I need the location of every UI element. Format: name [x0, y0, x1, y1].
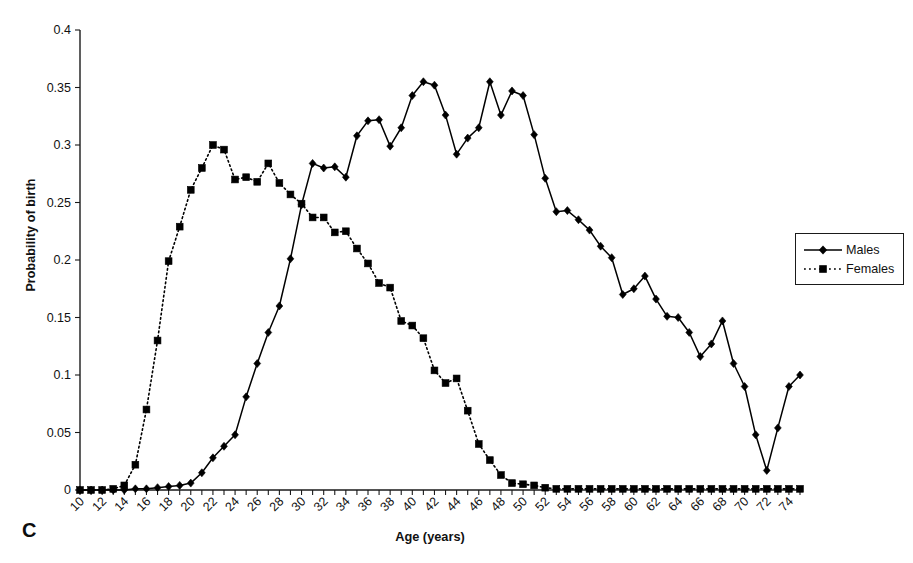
data-point-females: [354, 245, 361, 252]
data-point-males: [509, 87, 516, 95]
data-point-females: [365, 260, 372, 267]
x-tick-label: 50: [510, 494, 530, 514]
y-tick-label: 0.1: [54, 368, 71, 382]
legend-swatch-males: [803, 243, 843, 257]
data-point-females: [320, 214, 327, 221]
data-point-females: [664, 485, 671, 492]
x-tick-label: 66: [688, 494, 708, 514]
x-tick-label: 44: [444, 494, 464, 514]
x-tick-label: 36: [355, 494, 375, 514]
data-point-females: [143, 406, 150, 413]
y-tick-label: 0.2: [54, 253, 71, 267]
data-point-females: [763, 485, 770, 492]
data-point-females: [774, 485, 781, 492]
data-point-males: [309, 159, 316, 167]
data-point-females: [719, 485, 726, 492]
data-point-females: [287, 191, 294, 198]
data-point-males: [132, 485, 139, 493]
data-point-females: [553, 485, 560, 492]
legend-item-males: Males: [803, 240, 894, 259]
y-axis-label: Probability of birth: [24, 140, 38, 330]
x-tick-label: 70: [732, 494, 752, 514]
x-tick-label: 64: [665, 494, 685, 514]
data-point-males: [741, 383, 748, 391]
data-point-females: [121, 482, 128, 489]
data-point-females: [730, 485, 737, 492]
data-point-females: [564, 485, 571, 492]
x-tick-label: 40: [400, 494, 420, 514]
data-point-females: [464, 407, 471, 414]
data-point-females: [431, 367, 438, 374]
data-point-males: [542, 174, 549, 182]
x-tick-label: 12: [89, 494, 109, 514]
x-tick-label: 46: [466, 494, 486, 514]
data-point-males: [730, 360, 737, 368]
data-point-males: [486, 78, 493, 86]
data-point-females: [409, 322, 416, 329]
data-point-males: [520, 92, 527, 100]
data-point-females: [453, 375, 460, 382]
data-point-females: [619, 485, 626, 492]
data-point-males: [774, 424, 781, 432]
legend-swatch-females: [803, 262, 843, 276]
panel-label: C: [22, 519, 36, 542]
data-point-females: [675, 485, 682, 492]
chart-plot-area: 00.050.10.150.20.250.30.350.410121416182…: [0, 0, 913, 563]
x-tick-label: 34: [333, 494, 353, 514]
legend-item-females: Females: [803, 259, 894, 278]
x-tick-label: 24: [222, 494, 242, 514]
data-point-females: [486, 457, 493, 464]
data-point-females: [442, 380, 449, 387]
data-point-females: [187, 186, 194, 193]
data-point-males: [431, 81, 438, 89]
data-point-females: [398, 318, 405, 325]
data-point-males: [619, 291, 626, 299]
data-point-males: [287, 255, 294, 263]
x-tick-label: 30: [289, 494, 309, 514]
data-point-females: [586, 485, 593, 492]
data-point-males: [265, 328, 272, 336]
x-tick-label: 54: [555, 494, 575, 514]
x-tick-label: 26: [245, 494, 265, 514]
data-point-males: [763, 466, 770, 474]
y-tick-label: 0.25: [47, 196, 71, 210]
data-point-females: [331, 229, 338, 236]
x-tick-label: 56: [577, 494, 597, 514]
y-tick-label: 0.35: [47, 81, 71, 95]
data-point-females: [110, 485, 117, 492]
x-tick-label: 32: [311, 494, 331, 514]
x-tick-label: 68: [710, 494, 730, 514]
x-tick-label: 38: [377, 494, 397, 514]
data-point-males: [254, 360, 261, 368]
data-point-females: [653, 485, 660, 492]
data-point-females: [77, 487, 84, 494]
data-point-males: [553, 208, 560, 216]
data-point-males: [719, 317, 726, 325]
data-point-males: [442, 111, 449, 119]
data-point-males: [243, 393, 250, 401]
series-line-males: [80, 82, 800, 490]
data-point-females: [642, 485, 649, 492]
data-point-females: [520, 481, 527, 488]
chart-legend: Males Females: [795, 233, 904, 285]
x-tick-label: 62: [643, 494, 663, 514]
data-point-females: [542, 484, 549, 491]
x-tick-label: 60: [621, 494, 641, 514]
data-point-females: [498, 472, 505, 479]
data-point-males: [176, 481, 183, 489]
data-point-females: [176, 223, 183, 230]
x-tick-label: 18: [156, 494, 176, 514]
data-point-females: [243, 174, 250, 181]
x-tick-label: 58: [599, 494, 619, 514]
data-point-females: [88, 487, 95, 494]
figure-panel-c: 00.050.10.150.20.250.30.350.410121416182…: [0, 0, 913, 563]
y-tick-label: 0: [64, 483, 71, 497]
data-point-females: [708, 485, 715, 492]
y-tick-label: 0.05: [47, 426, 71, 440]
data-point-males: [498, 111, 505, 119]
x-tick-label: 74: [776, 494, 796, 514]
x-tick-label: 48: [488, 494, 508, 514]
data-point-females: [210, 142, 217, 149]
data-point-females: [99, 487, 106, 494]
data-point-females: [686, 485, 693, 492]
